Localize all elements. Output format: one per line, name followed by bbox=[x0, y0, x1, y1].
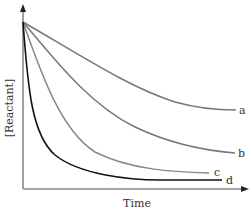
curve-d-label: d bbox=[226, 174, 233, 187]
curve-b bbox=[23, 22, 235, 153]
curve-a bbox=[23, 22, 236, 110]
curve-b-label: b bbox=[238, 147, 245, 160]
y-axis-arrow-icon bbox=[20, 4, 26, 12]
x-axis-arrow-icon bbox=[241, 186, 249, 192]
y-axis-title: [Reactant] bbox=[3, 79, 16, 138]
chart: a b c d Time [Reactant] bbox=[0, 0, 249, 212]
curve-d bbox=[23, 22, 222, 180]
x-axis-title: Time bbox=[123, 197, 151, 210]
curve-a-label: a bbox=[239, 104, 246, 117]
curve-c-label: c bbox=[214, 166, 220, 179]
